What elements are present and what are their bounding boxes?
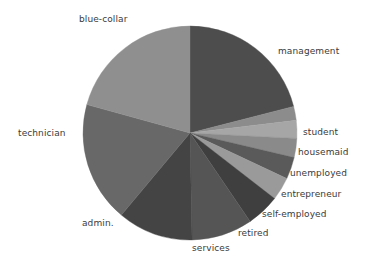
pie-slice-group: [83, 26, 297, 240]
pie-label-student: student: [303, 127, 338, 138]
pie-label-admin: admin.: [82, 218, 114, 229]
pie-label-technician: technician: [18, 128, 66, 139]
pie-label-housemaid: housemaid: [298, 147, 349, 158]
pie-label-self-employed: self-employed: [262, 209, 327, 220]
pie-label-management: management: [278, 46, 339, 57]
pie-label-entrepreneur: entrepreneur: [281, 189, 341, 200]
pie-chart-figure: management student housemaid unemployed …: [0, 0, 371, 262]
pie-label-blue-collar: blue-collar: [79, 14, 127, 25]
pie-label-retired: retired: [238, 228, 269, 239]
pie-label-services: services: [192, 243, 230, 254]
pie-label-unemployed: unemployed: [290, 168, 347, 179]
